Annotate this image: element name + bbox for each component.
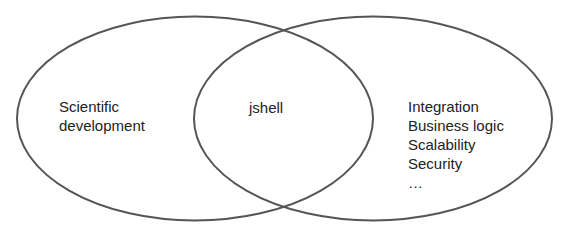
intersection-label: jshell — [249, 98, 283, 117]
left-set-label-line: Scientific — [59, 97, 145, 116]
intersection-label-text: jshell — [249, 98, 283, 117]
right-set-label-line: Scalability — [408, 135, 504, 154]
left-set-label: Scientific development — [59, 97, 145, 135]
right-set-label-ellipsis: … — [408, 173, 504, 192]
right-set-label: Integration Business logic Scalability S… — [408, 97, 504, 192]
right-set-label-line: Security — [408, 154, 504, 173]
left-set-label-line: development — [59, 116, 145, 135]
right-set-label-line: Business logic — [408, 116, 504, 135]
right-set-label-line: Integration — [408, 97, 504, 116]
